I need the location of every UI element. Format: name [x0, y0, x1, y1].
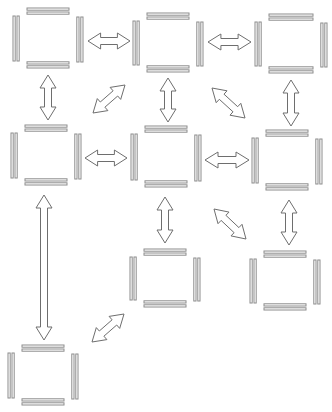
edge-bottom	[144, 305, 186, 307]
edge-top	[269, 14, 313, 16]
edge-bottom	[25, 179, 67, 181]
node-n6	[252, 130, 322, 190]
edge-left	[11, 133, 13, 178]
double-arrow-icon	[160, 78, 176, 122]
edge-right	[314, 260, 316, 304]
edge-top	[25, 125, 67, 127]
edge-bottom	[147, 66, 189, 68]
edge-left	[17, 16, 19, 61]
edge-right	[198, 258, 200, 301]
node-n4	[11, 125, 81, 185]
edge-left	[131, 134, 133, 180]
double-arrow-icon	[36, 195, 52, 340]
edge-right	[201, 22, 203, 66]
edge-bottom	[144, 301, 186, 303]
edge-left	[252, 138, 254, 183]
edge-left	[255, 22, 257, 66]
double-arrow-icon	[157, 197, 173, 243]
edge-right	[325, 23, 327, 67]
edge-right	[81, 17, 83, 62]
edge-right	[320, 139, 322, 184]
edge-bottom	[27, 66, 69, 68]
edge-right	[76, 354, 78, 399]
diagram-svg	[0, 0, 332, 412]
edge-right	[79, 134, 81, 179]
edge-top	[144, 253, 186, 255]
edge-top	[266, 134, 308, 136]
double-arrow-icon	[40, 75, 56, 120]
edge-top	[145, 126, 187, 128]
edge-left	[256, 138, 258, 183]
double-arrow-icon	[205, 152, 249, 168]
edge-bottom	[25, 183, 67, 185]
edge-bottom	[27, 62, 69, 64]
double-arrow-icon	[212, 88, 245, 118]
edge-bottom	[266, 184, 308, 186]
edge-right	[318, 260, 320, 304]
edge-top	[22, 345, 64, 347]
edge-bottom	[269, 67, 313, 69]
node-n5	[131, 126, 201, 187]
edge-top	[264, 255, 306, 257]
edge-top	[27, 8, 69, 10]
edge-top	[147, 13, 189, 15]
edge-top	[22, 349, 64, 351]
double-arrow-icon	[85, 150, 127, 166]
double-arrow-icon	[93, 85, 125, 113]
edge-top	[145, 130, 187, 132]
edge-bottom	[22, 399, 64, 401]
edge-left	[250, 259, 252, 303]
edge-bottom	[22, 403, 64, 405]
double-arrow-icon	[208, 34, 251, 50]
edge-bottom	[145, 185, 187, 187]
node-n8	[250, 251, 320, 310]
double-arrow-icon	[214, 209, 246, 239]
edge-right	[72, 354, 74, 399]
edge-left	[12, 353, 14, 398]
node-n2	[133, 13, 203, 72]
edge-bottom	[147, 70, 189, 72]
edge-top	[266, 130, 308, 132]
edge-left	[135, 134, 137, 180]
edge-left	[15, 133, 17, 178]
edge-bottom	[264, 308, 306, 310]
edge-right	[194, 258, 196, 301]
diagram-canvas	[0, 0, 332, 412]
double-arrow-icon	[92, 314, 124, 342]
edge-top	[269, 18, 313, 20]
edge-right	[195, 135, 197, 181]
double-arrow-icon	[88, 33, 130, 49]
edge-left	[8, 353, 10, 398]
edge-left	[137, 21, 139, 65]
edge-bottom	[264, 304, 306, 306]
edge-left	[259, 22, 261, 66]
double-arrow-icon	[281, 200, 297, 245]
double-arrow-icon	[283, 80, 299, 126]
edge-top	[144, 249, 186, 251]
node-n1	[13, 8, 83, 68]
edge-right	[77, 17, 79, 62]
edge-bottom	[266, 188, 308, 190]
edge-left	[134, 257, 136, 300]
edge-right	[321, 23, 323, 67]
edge-top	[25, 129, 67, 131]
edge-bottom	[145, 181, 187, 183]
edge-bottom	[269, 71, 313, 73]
node-n7	[130, 249, 200, 307]
edge-right	[75, 134, 77, 179]
edge-left	[130, 257, 132, 300]
edge-top	[147, 17, 189, 19]
edge-left	[13, 16, 15, 61]
edge-top	[264, 251, 306, 253]
edge-right	[316, 139, 318, 184]
edge-top	[27, 12, 69, 14]
edge-left	[254, 259, 256, 303]
edge-right	[197, 22, 199, 66]
edge-left	[133, 21, 135, 65]
edge-right	[199, 135, 201, 181]
node-n9	[8, 345, 78, 405]
node-n3	[255, 14, 327, 73]
